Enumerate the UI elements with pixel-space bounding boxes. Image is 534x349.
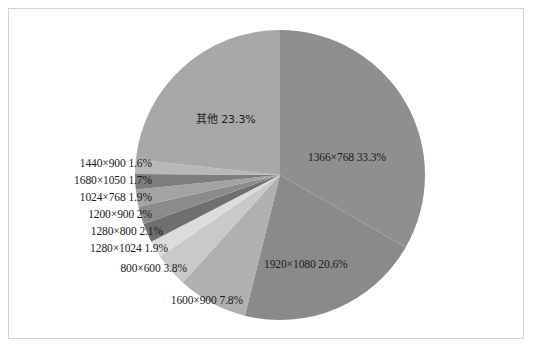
slice-label-1920x1080: 1920×1080 20.6% [264, 258, 348, 271]
pie-chart: 其他 23.3% 1366×768 33.3% 1920×1080 20.6% … [0, 0, 534, 349]
slice-label-1440x900: 1440×900 1.6% [0, 157, 152, 170]
slice-label-800x600: 800×600 3.8% [0, 262, 187, 275]
pie-slice [136, 30, 280, 175]
slice-label-1366x768: 1366×768 33.3% [308, 151, 386, 164]
pie-slice-group [135, 30, 425, 320]
slice-label-1024x768: 1024×768 1.9% [0, 191, 152, 204]
slice-label-1280x1024: 1280×1024 1.9% [0, 242, 168, 255]
slice-label-other: 其他 23.3% [196, 113, 256, 126]
chart-canvas: 其他 23.3% 1366×768 33.3% 1920×1080 20.6% … [0, 0, 534, 349]
slice-label-1600x900: 1600×900 7.8% [0, 294, 243, 307]
slice-label-1200x900: 1200×900 2% [0, 208, 152, 221]
slice-label-1280x800: 1280×800 2.1% [0, 225, 163, 238]
slice-label-1680x1050: 1680×1050 1.7% [0, 174, 152, 187]
